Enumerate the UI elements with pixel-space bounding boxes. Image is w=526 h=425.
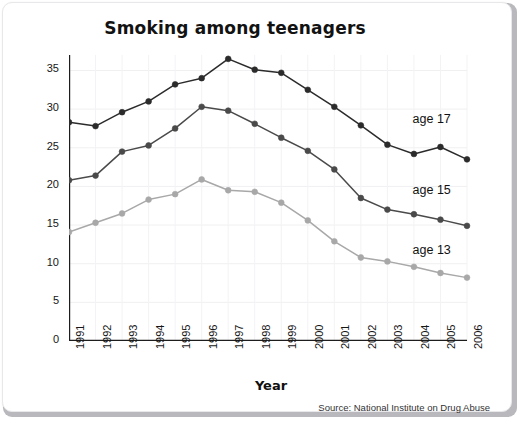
x-tick-label: 2000 bbox=[313, 325, 325, 349]
x-tick-label: 2001 bbox=[339, 325, 351, 349]
series-annotation-age-17: age 17 bbox=[413, 112, 451, 126]
chart-container: Smoking among teenagers Percentage of st… bbox=[0, 0, 526, 425]
y-tick-label: 20 bbox=[33, 178, 59, 190]
x-tick-label: 2004 bbox=[419, 325, 431, 349]
x-tick-label: 1992 bbox=[101, 325, 113, 349]
x-tick-label: 1998 bbox=[260, 325, 272, 349]
chart-page: Smoking among teenagers Percentage of st… bbox=[0, 0, 526, 425]
x-tick-label: 1995 bbox=[180, 325, 192, 349]
x-tick-label: 2003 bbox=[392, 325, 404, 349]
y-tick-label: 10 bbox=[33, 256, 59, 268]
x-tick-label: 1996 bbox=[207, 325, 219, 349]
series-annotation-age-15: age 15 bbox=[413, 183, 451, 197]
series-annotation-age-13: age 13 bbox=[413, 243, 451, 257]
x-tick-label: 1991 bbox=[74, 325, 86, 349]
x-axis-label: Year bbox=[69, 378, 473, 393]
source-note: Source: National Institute on Drug Abuse bbox=[318, 402, 490, 413]
plot-svg bbox=[69, 55, 473, 341]
x-tick-label: 1999 bbox=[286, 325, 298, 349]
y-tick-label: 35 bbox=[33, 62, 59, 74]
y-tick-label: 15 bbox=[33, 217, 59, 229]
x-tick-label: 1993 bbox=[127, 325, 139, 349]
y-tick-label: 5 bbox=[33, 294, 59, 306]
y-tick-label: 30 bbox=[33, 101, 59, 113]
x-tick-label: 2006 bbox=[472, 325, 484, 349]
x-tick-label: 1994 bbox=[154, 325, 166, 349]
y-tick-label: 25 bbox=[33, 140, 59, 152]
plot-area bbox=[69, 55, 473, 341]
series-age-13 bbox=[69, 177, 470, 281]
x-tick-label: 1997 bbox=[233, 325, 245, 349]
x-tick-label: 2002 bbox=[366, 325, 378, 349]
x-tick-label: 2005 bbox=[445, 325, 457, 349]
y-tick-label: 0 bbox=[33, 333, 59, 345]
chart-title: Smoking among teenagers bbox=[0, 18, 470, 38]
